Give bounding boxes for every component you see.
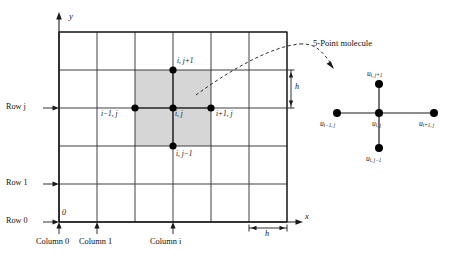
grid-node-top-label: i, j+1 — [177, 57, 194, 64]
grid-node-right — [207, 104, 214, 111]
molecule-node-bottom-sub: i, j−1 — [370, 157, 382, 163]
column-label-0-text: Column 0 — [36, 237, 69, 246]
grid-node-right-label: i+1, j — [216, 110, 233, 117]
x-axis-label: x — [305, 212, 309, 221]
column-label-1-text: Column 1 — [79, 237, 112, 246]
column-label-i-text: Column i — [150, 237, 181, 246]
molecule-node-bottom — [375, 144, 383, 152]
row-label-1-text: Row 1 — [6, 178, 28, 187]
figure-canvas: y x 0 Row j Row 1 Row 0 Column 0 Column … — [0, 0, 453, 264]
molecule-node-right-sub: i+1, j — [423, 122, 435, 128]
h-label-vertical: h — [295, 83, 299, 91]
grid-node-center-label: i, j — [175, 110, 183, 117]
molecule-node-top-label: ui, j+1 — [367, 70, 382, 78]
row-label-0-text: Row 0 — [6, 216, 28, 225]
callout-title: 5-Point molecule — [313, 39, 372, 48]
grid-node-bottom-label: i, j−1 — [176, 150, 193, 157]
molecule-node-left-sub: i−1, j — [324, 122, 336, 128]
molecule-arms — [337, 84, 434, 148]
h-marker-vertical — [288, 70, 295, 108]
molecule-node-dots — [333, 80, 438, 152]
molecule-node-right — [430, 109, 438, 117]
column-tick-arrows — [56, 222, 175, 234]
grid-node-left-label: i−1, j — [101, 110, 118, 117]
column-label-1: Column 1 — [79, 238, 112, 246]
molecule-node-center-sub: i, j — [376, 122, 381, 128]
molecule-node-center — [375, 109, 383, 117]
row-label-1: Row 1 — [6, 179, 28, 187]
diagram-svg — [0, 0, 453, 264]
grid-node-top — [169, 66, 176, 73]
y-axis-label: y — [69, 12, 73, 21]
column-label-i: Column i — [150, 238, 181, 246]
y-axis — [56, 12, 62, 222]
callout-connector — [196, 44, 330, 95]
row-label-0: Row 0 — [6, 217, 28, 225]
molecule-node-center-label: ui, j — [372, 120, 381, 128]
x-axis — [59, 219, 303, 225]
callout-arrowhead — [327, 61, 335, 69]
h-label-horizontal: h — [265, 230, 269, 238]
column-label-0: Column 0 — [36, 238, 69, 246]
molecule-node-right-label: ui+1, j — [419, 120, 434, 128]
molecule-node-top — [375, 80, 383, 88]
molecule-node-left-label: ui−1, j — [320, 120, 335, 128]
origin-label: 0 — [62, 209, 66, 217]
molecule-node-left — [333, 109, 341, 117]
molecule-node-top-sub: i, j+1 — [371, 72, 383, 78]
grid-node-left — [131, 104, 138, 111]
row-tick-arrows — [43, 105, 59, 224]
row-label-j-text: Row j — [6, 102, 26, 111]
row-label-j: Row j — [6, 103, 26, 111]
molecule-node-bottom-label: ui, j−1 — [366, 155, 381, 163]
